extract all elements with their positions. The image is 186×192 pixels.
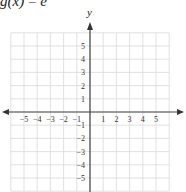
y-axis-up-arrow-icon	[87, 22, 93, 30]
x-tick-label: −5	[20, 115, 29, 124]
y-tick-label: 3	[81, 68, 85, 77]
y-tick-label: 1	[81, 95, 85, 104]
y-tick-label: 5	[81, 42, 85, 51]
x-tick-labels: −5−4−3−2−112345	[20, 115, 158, 124]
x-tick-label: 5	[154, 115, 158, 124]
y-tick-label: −5	[76, 174, 85, 183]
y-tick-label: −3	[76, 148, 85, 157]
x-axis-left-arrow-icon	[2, 109, 9, 115]
x-tick-label: 1	[101, 115, 105, 124]
x-tick-label: 3	[128, 115, 132, 124]
x-tick-label: −3	[46, 115, 55, 124]
y-tick-label: −1	[76, 121, 85, 130]
y-tick-label: −4	[76, 161, 85, 170]
y-tick-label: −2	[76, 134, 85, 143]
x-tick-label: 4	[141, 115, 145, 124]
y-axis-label: y	[86, 6, 92, 18]
x-tick-label: −4	[33, 115, 42, 124]
y-tick-label: 2	[81, 82, 85, 91]
x-tick-label: 2	[114, 115, 118, 124]
y-tick-label: 4	[81, 55, 85, 64]
x-tick-label: −2	[59, 115, 68, 124]
x-axis-right-arrow-icon	[177, 109, 184, 115]
coordinate-grid: y −5−4−3−2−112345 54321−1−2−3−4−5	[0, 0, 186, 192]
